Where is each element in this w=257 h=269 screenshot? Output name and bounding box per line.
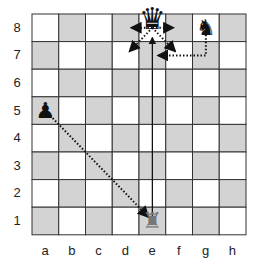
square-b7 [59, 42, 86, 70]
square-b6 [59, 69, 86, 97]
square-d3 [112, 152, 139, 180]
rank-label-2: 2 [10, 185, 24, 200]
gray-rook-e1: ♜ [143, 208, 163, 233]
square-a1 [32, 207, 59, 235]
square-b3 [59, 152, 86, 180]
square-c6 [86, 69, 113, 97]
square-f5 [166, 97, 193, 125]
rank-label-6: 6 [10, 75, 24, 90]
rank-label-8: 8 [10, 20, 24, 35]
square-c7 [86, 42, 113, 70]
square-b2 [59, 180, 86, 208]
square-d5 [112, 97, 139, 125]
black-knight-g8: ♞ [196, 15, 216, 40]
square-a2 [32, 180, 59, 208]
rank-label-4: 4 [10, 130, 24, 145]
square-a4 [32, 124, 59, 152]
square-f2 [166, 180, 193, 208]
file-label-c: c [86, 243, 112, 258]
square-b5 [59, 97, 86, 125]
file-label-f: f [166, 243, 192, 258]
rank-label-1: 1 [10, 213, 24, 228]
square-h2 [219, 180, 246, 208]
black-pawn-a5: ♟ [36, 98, 56, 123]
square-h1 [219, 207, 246, 235]
square-b1 [59, 207, 86, 235]
file-label-b: b [59, 243, 85, 258]
square-h6 [219, 69, 246, 97]
square-d8 [112, 14, 139, 42]
file-label-a: a [32, 243, 58, 258]
square-b8 [59, 14, 86, 42]
square-c1 [86, 207, 113, 235]
square-c8 [86, 14, 113, 42]
square-f4 [166, 124, 193, 152]
square-a7 [32, 42, 59, 70]
black-queen-e8: ♛ [139, 1, 166, 36]
square-h3 [219, 152, 246, 180]
square-c4 [86, 124, 113, 152]
rank-label-5: 5 [10, 103, 24, 118]
file-label-d: d [112, 243, 138, 258]
square-f3 [166, 152, 193, 180]
file-label-h: h [219, 243, 245, 258]
square-d6 [112, 69, 139, 97]
chess-board: ♛♞♟♜ [0, 0, 257, 269]
square-g1 [193, 207, 220, 235]
square-g5 [193, 97, 220, 125]
file-label-e: e [139, 243, 165, 258]
square-g4 [193, 124, 220, 152]
square-h4 [219, 124, 246, 152]
square-c2 [86, 180, 113, 208]
square-f8 [166, 14, 193, 42]
square-h7 [219, 42, 246, 70]
square-d1 [112, 207, 139, 235]
file-label-g: g [193, 243, 219, 258]
square-f1 [166, 207, 193, 235]
rank-label-7: 7 [10, 47, 24, 62]
square-a3 [32, 152, 59, 180]
square-g3 [193, 152, 220, 180]
square-h8 [219, 14, 246, 42]
square-g2 [193, 180, 220, 208]
square-c5 [86, 97, 113, 125]
square-f6 [166, 69, 193, 97]
board-squares [32, 14, 246, 235]
rank-label-3: 3 [10, 158, 24, 173]
square-a8 [32, 14, 59, 42]
square-h5 [219, 97, 246, 125]
square-a6 [32, 69, 59, 97]
square-d4 [112, 124, 139, 152]
square-g6 [193, 69, 220, 97]
